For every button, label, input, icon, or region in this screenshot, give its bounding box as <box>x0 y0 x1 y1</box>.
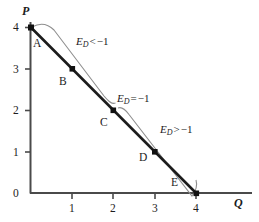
x-tick-label-3: 3 <box>152 203 158 215</box>
x-tick-label-4: 4 <box>193 203 199 215</box>
point-marker-c <box>111 108 117 114</box>
plot-canvas <box>0 0 259 222</box>
annotation-elastic-symbol: E <box>76 35 83 47</box>
y-tick-label-0: 0 <box>13 188 19 200</box>
annotation-inelastic-operator: > <box>174 123 180 135</box>
annotation-unit-elastic-subscript: D <box>124 97 130 106</box>
point-label-d: D <box>139 152 147 164</box>
x-tick-label-1: 1 <box>69 203 75 215</box>
annotation-unit-elastic-operator: = <box>131 92 137 104</box>
point-marker-a <box>28 25 34 31</box>
y-tick-label-4: 4 <box>13 22 19 34</box>
annotation-inelastic: ED>−1 <box>160 124 192 137</box>
x-axis-label: Q <box>234 197 243 209</box>
annotation-inelastic-value: −1 <box>181 123 193 135</box>
y-tick-label-3: 3 <box>13 64 19 76</box>
annotation-unit-elastic: ED=−1 <box>117 93 149 106</box>
point-label-e: E <box>171 177 178 189</box>
point-marker-d <box>152 149 158 155</box>
point-marker-e <box>194 191 200 197</box>
annotation-elastic: ED<−1 <box>76 36 108 49</box>
y-tick-label-1: 1 <box>13 147 19 159</box>
x-tick-label-2: 2 <box>110 203 116 215</box>
point-label-b: B <box>59 76 67 88</box>
annotation-unit-elastic-symbol: E <box>117 92 124 104</box>
annotation-elastic-value: −1 <box>97 35 109 47</box>
annotation-elastic-operator: < <box>90 35 96 47</box>
annotation-inelastic-symbol: E <box>160 123 167 135</box>
y-axis-label: P <box>22 5 29 17</box>
elasticity-figure: P Q 4 3 2 1 0 1 2 3 4 A B C D E ED<−1 ED… <box>0 0 259 222</box>
y-tick-label-2: 2 <box>13 105 19 117</box>
point-label-a: A <box>33 38 41 50</box>
annotation-elastic-subscript: D <box>83 40 89 49</box>
annotation-inelastic-subscript: D <box>167 128 173 137</box>
annotation-unit-elastic-value: −1 <box>138 92 150 104</box>
point-marker-b <box>70 66 76 72</box>
point-label-c: C <box>100 117 108 129</box>
